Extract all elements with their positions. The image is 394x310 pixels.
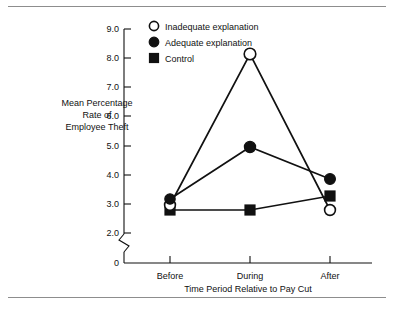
- legend: Inadequate explanation Adequate explanat…: [149, 21, 258, 64]
- data-point-adequate-after: [325, 174, 336, 185]
- y-tick-label-4: 4.0: [106, 170, 119, 180]
- series-line-inadequate-explanation: [170, 54, 330, 210]
- x-tick-label-before: Before: [157, 271, 184, 281]
- data-point-adequate-before: [165, 194, 175, 204]
- figure-container: 9.0 8.0 7.0 6.0 5.0 4.0 3.0 2.0 0 Before…: [0, 0, 394, 310]
- legend-entry-adequate-explanation: Adequate explanation: [149, 37, 252, 48]
- data-point-inadequate-during: [244, 48, 256, 60]
- y-tick-label-3: 3.0: [106, 199, 119, 209]
- x-tick-label-during: During: [237, 271, 264, 281]
- open-circle-icon: [149, 21, 158, 30]
- markers-adequate-explanation: [165, 141, 336, 204]
- legend-entry-inadequate-explanation: Inadequate explanation: [149, 21, 258, 32]
- y-tick-label-2: 2.0: [106, 228, 119, 238]
- y-tick-label-8: 8.0: [106, 53, 119, 63]
- y-axis-title: Mean Percentage Rate of Employee Theft: [61, 98, 132, 132]
- y-tick-label-5: 5.0: [106, 141, 119, 151]
- y-axis-title-line-1: Mean Percentage: [61, 98, 132, 108]
- x-axis-title: Time Period Relative to Pay Cut: [184, 284, 312, 294]
- y-axis-break-icon: [119, 234, 129, 252]
- x-tick-label-after: After: [320, 271, 339, 281]
- data-point-inadequate-after: [325, 205, 336, 216]
- legend-label-adequate-explanation: Adequate explanation: [165, 38, 252, 48]
- y-tick-label-7: 7.0: [106, 82, 119, 92]
- filled-square-icon: [150, 54, 159, 63]
- y-axis: 9.0 8.0 7.0 6.0 5.0 4.0 3.0 2.0 0: [106, 24, 131, 268]
- legend-entry-control: Control: [150, 54, 195, 65]
- data-point-control-after: [325, 191, 335, 201]
- y-axis-title-line-3: Employee Theft: [66, 122, 129, 132]
- filled-circle-icon: [149, 37, 159, 47]
- data-point-control-during: [245, 205, 255, 215]
- y-axis-title-line-2: Rate of: [82, 110, 112, 120]
- x-axis: Before During After: [124, 256, 372, 281]
- markers-control: [165, 191, 335, 215]
- data-point-adequate-during: [244, 141, 255, 152]
- markers-inadequate-explanation: [165, 48, 336, 215]
- y-tick-label-9: 9.0: [106, 24, 119, 34]
- y-tick-label-0: 0: [114, 258, 119, 268]
- line-chart: 9.0 8.0 7.0 6.0 5.0 4.0 3.0 2.0 0 Before…: [0, 0, 394, 310]
- legend-label-control: Control: [165, 54, 194, 64]
- legend-label-inadequate-explanation: Inadequate explanation: [165, 22, 259, 32]
- series-line-adequate-explanation: [170, 147, 330, 199]
